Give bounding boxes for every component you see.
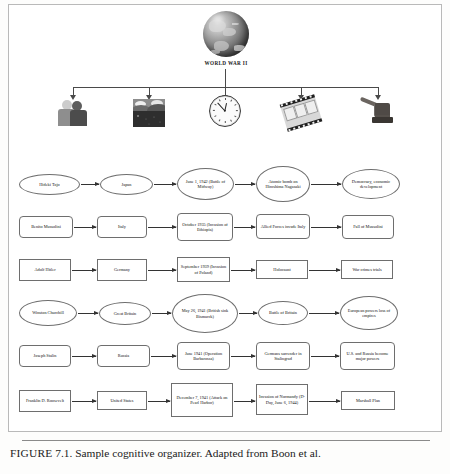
root-stem: [225, 69, 226, 87]
row-arrow: [234, 227, 255, 228]
node-cell[interactable]: Hideki Tojo: [19, 174, 80, 195]
organizer-row: Benito Mussolini Italy October 1935 (Inv…: [9, 206, 442, 249]
root-node: WORLD WAR II: [9, 11, 442, 66]
organizer-row: Hideki Tojo Japan June 1, 1942 (Battle o…: [9, 163, 442, 206]
row-arrow: [154, 184, 176, 185]
caption-number: 7.1.: [55, 447, 72, 459]
node-cell[interactable]: June 1941 (Operation Barbarossa): [177, 342, 230, 370]
node-cell[interactable]: War crimes trials: [341, 260, 393, 279]
figure-frame: WORLD WAR II Le: [8, 4, 442, 432]
row-arrow: [72, 356, 96, 357]
node-cell[interactable]: European powers loss of empires: [340, 296, 398, 330]
node-cell[interactable]: Winston Churchill: [19, 300, 77, 326]
row-arrow: [151, 356, 176, 357]
organizer-row: Franklin D. Roosevelt United States Dece…: [9, 378, 442, 421]
node-cell[interactable]: Russia: [97, 345, 150, 367]
node-cell[interactable]: Benito Mussolini: [19, 216, 73, 238]
row-arrow: [231, 270, 255, 271]
landscape-icon: [106, 93, 192, 127]
node-cell[interactable]: United States: [97, 391, 147, 410]
row-arrow: [239, 313, 257, 314]
caption-divider: [22, 440, 430, 441]
globe-icon: [203, 11, 249, 57]
row-arrow: [234, 401, 255, 402]
category-events: Significant events (WHAT happened): [258, 93, 344, 127]
row-arrow: [72, 401, 96, 402]
people-icon: [30, 93, 116, 127]
caption-label: FIGURE: [10, 447, 52, 459]
film-strip-icon: [258, 93, 344, 127]
node-cell[interactable]: June 1, 1942 (Battle of Midway): [177, 168, 234, 200]
node-cell[interactable]: Democracy, economic development: [342, 169, 400, 199]
node-cell[interactable]: Invasion of Normandy (D-Day, June 6, 194…: [256, 384, 308, 415]
organizer-row: Adolf Hitler Germany September 1939 (Inv…: [9, 249, 442, 292]
node-cell[interactable]: Germany: [97, 259, 147, 281]
node-cell[interactable]: Japan: [100, 174, 153, 195]
node-cell[interactable]: Marshall Plan: [341, 391, 395, 410]
node-cell[interactable]: Adolf Hitler: [19, 259, 71, 281]
row-arrow: [309, 313, 339, 314]
gavel-icon: [335, 93, 421, 127]
row-arrow: [148, 227, 176, 228]
node-cell[interactable]: September 1939 (Invasion of Poland): [177, 257, 230, 282]
category-countries: Countries (WHERE): [106, 93, 192, 127]
row-arrow: [235, 184, 255, 185]
row-arrow: [74, 227, 96, 228]
row-arrow: [78, 313, 98, 314]
caption-text: Sample cognitive organizer. Adapted from…: [75, 447, 321, 459]
organizer-row: Winston Churchill Great Britain May 26, …: [9, 292, 442, 335]
node-cell[interactable]: Fall of Mussolini: [342, 215, 394, 239]
node-cell[interactable]: U.S. and Russia become major powers: [340, 342, 395, 370]
root-label: WORLD WAR II: [9, 60, 442, 66]
figure-caption: FIGURE 7.1. Sample cognitive organizer. …: [10, 446, 442, 461]
figure-page: WORLD WAR II Le: [0, 0, 450, 474]
category-leaders: Leaders (WHO): [30, 93, 116, 127]
category-header-row: Leaders (WHO) Countries (WHERE): [9, 93, 442, 153]
organizer-row: Joseph Stalin Russia June 1941 (Operatio…: [9, 335, 442, 378]
node-cell[interactable]: Atomic bomb on Hiroshima Nagasaki: [256, 166, 310, 202]
node-cell[interactable]: Franklin D. Roosevelt: [19, 390, 71, 412]
category-dates: Significant dates (WHEN): [182, 93, 268, 127]
row-arrow: [72, 270, 96, 271]
row-arrow: [148, 270, 176, 271]
row-arrow: [152, 313, 171, 314]
node-cell[interactable]: Joseph Stalin: [19, 345, 71, 367]
node-cell[interactable]: Holocaust: [256, 260, 308, 279]
node-cell[interactable]: May 26, 1941 (British sink Bismarck): [172, 294, 238, 333]
row-arrow: [309, 270, 340, 271]
row-arrow: [81, 184, 99, 185]
node-cell[interactable]: October 1935 (Invasion of Ethiopia): [177, 213, 233, 241]
node-cell[interactable]: Italy: [97, 216, 147, 238]
row-arrow: [311, 184, 341, 185]
node-cell[interactable]: December 7, 1941 (Attack on Pearl Harbor…: [171, 383, 233, 417]
node-cell[interactable]: Great Britain: [99, 302, 151, 325]
row-arrow: [311, 356, 339, 357]
row-arrow: [309, 401, 340, 402]
clock-icon: [182, 93, 268, 127]
organizer-rows: Hideki Tojo Japan June 1, 1942 (Battle o…: [9, 163, 442, 421]
category-outcomes: Outcomes (HOW did it end): [335, 93, 421, 127]
node-cell[interactable]: Battle of Britain: [258, 301, 308, 325]
row-arrow: [231, 356, 255, 357]
node-cell[interactable]: Allied Forces invade Italy: [256, 214, 310, 239]
node-cell[interactable]: Germans surrender in Stalingrad: [256, 342, 310, 370]
row-arrow: [148, 401, 170, 402]
row-arrow: [311, 227, 341, 228]
